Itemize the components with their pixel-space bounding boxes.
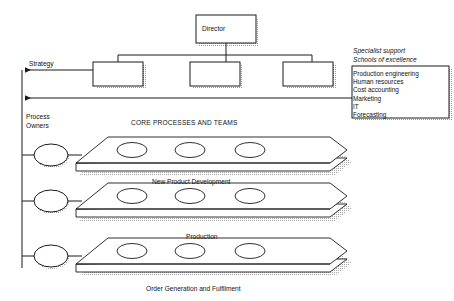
specialist-item: Marketing — [353, 95, 419, 103]
process-owner-3 — [34, 245, 68, 267]
process-owner-1 — [34, 144, 68, 166]
team-node — [175, 189, 205, 204]
team-node — [175, 143, 205, 158]
process-label-1: New Product Development — [152, 178, 230, 186]
director-label: Director — [202, 25, 225, 33]
specialist-item: Production engineering — [353, 70, 419, 78]
specialist-item: Forecasting — [353, 111, 419, 119]
subordinate-box-2 — [190, 62, 240, 86]
diagram-canvas: Director Strategy Process Owners Special… — [0, 0, 454, 301]
team-node — [235, 244, 265, 259]
team-node — [117, 244, 147, 259]
process-label-2: Production — [186, 233, 218, 241]
process-slab-3 — [76, 238, 352, 276]
specialist-item: Cost accounting — [353, 86, 419, 94]
subordinate-box-1 — [93, 62, 143, 86]
specialist-heading-line2: Schools of excellence — [353, 56, 417, 64]
specialist-item: IT — [353, 103, 419, 111]
team-node — [235, 143, 265, 158]
process-slab-1 — [76, 137, 352, 175]
team-node — [175, 244, 205, 259]
process-owner-2 — [34, 190, 68, 212]
specialist-support-list: Production engineering Human resources C… — [353, 70, 419, 119]
specialist-item: Human resources — [353, 78, 419, 86]
core-processes-title: CORE PROCESSES AND TEAMS — [131, 119, 238, 127]
diagram-vector-layer — [0, 0, 454, 301]
process-slab-2 — [76, 183, 352, 221]
subordinate-box-3 — [283, 62, 333, 86]
specialist-heading-line1: Specialist support — [353, 47, 405, 55]
team-node — [117, 143, 147, 158]
process-owners-label-line2: Owners — [26, 122, 49, 130]
process-label-3: Order Generation and Fulfilment — [146, 285, 241, 293]
process-owners-label-line1: Process — [26, 113, 50, 121]
strategy-label: Strategy — [29, 60, 54, 68]
team-node — [117, 189, 147, 204]
team-node — [235, 189, 265, 204]
